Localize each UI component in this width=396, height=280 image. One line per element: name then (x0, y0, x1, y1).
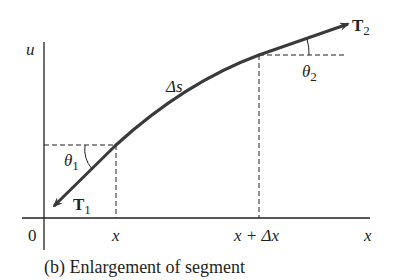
t2-label: T2 (352, 16, 370, 38)
angle-arc-theta2 (307, 39, 309, 55)
t2-subscript: 2 (363, 23, 370, 38)
x-axis-label: x (363, 226, 372, 245)
curve-label-delta-s: Δs (165, 77, 183, 96)
y-axis-label: u (26, 40, 35, 59)
angle-arc-theta1 (85, 145, 92, 169)
theta1-label: θ1 (64, 151, 79, 173)
curve-segment (116, 55, 259, 145)
segment-diagram: u Δs θ2 θ1 T1 T2 0 x x + Δx x (b) Enlarg… (0, 0, 396, 280)
theta2-label: θ2 (302, 62, 317, 84)
t1-label: T1 (73, 195, 91, 217)
origin-label: 0 (28, 226, 37, 245)
theta1-subscript: 1 (72, 158, 79, 173)
theta1-main: θ (64, 151, 72, 170)
t2-main: T (352, 16, 364, 35)
theta2-main: θ (302, 62, 310, 81)
tick-label-x: x (111, 226, 120, 245)
tension-vector-t2 (259, 24, 348, 55)
theta2-subscript: 2 (310, 69, 317, 84)
figure-caption: (b) Enlargement of segment (44, 257, 245, 278)
t1-main: T (73, 195, 85, 214)
t1-subscript: 1 (84, 202, 91, 217)
tick-label-x-plus-delta-x: x + Δx (233, 226, 279, 245)
